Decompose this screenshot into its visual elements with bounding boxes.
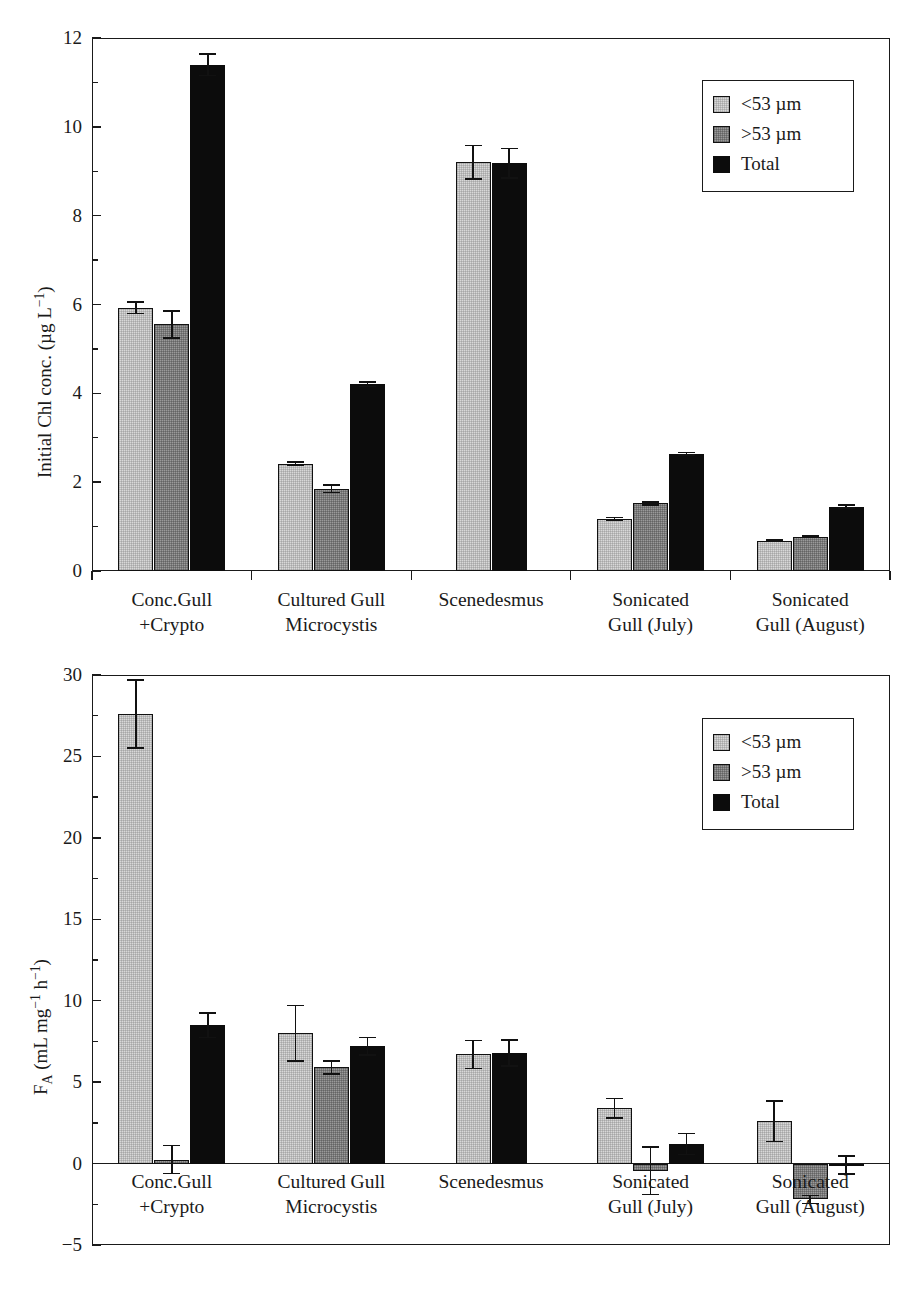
y-tick-label: 4 bbox=[30, 383, 82, 402]
error-bar-cap bbox=[465, 145, 482, 147]
error-bar-cap bbox=[465, 1040, 482, 1042]
bar-gt53 bbox=[314, 1067, 349, 1163]
y-tick-major bbox=[92, 1081, 101, 1082]
y-tick-label: 12 bbox=[30, 28, 82, 47]
error-bar-cap bbox=[678, 452, 695, 454]
error-bar-cap bbox=[766, 541, 783, 543]
bar-lt53 bbox=[456, 1054, 491, 1163]
bar-lt53 bbox=[118, 308, 153, 571]
y-tick-label: 20 bbox=[30, 828, 82, 847]
y-tick-minor bbox=[92, 348, 98, 349]
error-bar-cap bbox=[287, 464, 304, 466]
x-tick-major bbox=[411, 571, 412, 580]
legend-label-lt53: <53 µm bbox=[741, 93, 801, 115]
x-tick-major bbox=[91, 571, 92, 580]
bar-lt53 bbox=[118, 714, 153, 1163]
error-bar-cap bbox=[606, 517, 623, 519]
y-tick-label: 5 bbox=[30, 1072, 82, 1091]
error-bar-cap bbox=[678, 1154, 695, 1156]
error-bar-cap bbox=[323, 492, 340, 494]
error-bar-cap bbox=[127, 313, 144, 315]
error-bar-stem bbox=[508, 1040, 510, 1066]
bar-gt53 bbox=[314, 489, 349, 571]
error-bar-cap bbox=[501, 1039, 518, 1041]
y-tick-major bbox=[92, 919, 101, 920]
bar-total bbox=[350, 384, 385, 571]
error-bar-stem bbox=[171, 311, 173, 338]
y-tick-label: 2 bbox=[30, 472, 82, 491]
y-tick-major bbox=[92, 37, 101, 38]
y-tick-major bbox=[92, 304, 101, 305]
figure-root: Initial Chl conc. (µg L−1) 024681012 Con… bbox=[0, 0, 897, 1309]
chart-panel-top: Initial Chl conc. (µg L−1) 024681012 Con… bbox=[0, 0, 897, 640]
error-bar-cap bbox=[501, 148, 518, 150]
x-tick-major bbox=[251, 571, 252, 580]
legend-bottom: <53 µm >53 µm Total bbox=[702, 718, 854, 830]
error-bar-cap bbox=[838, 504, 855, 506]
y-tick-major bbox=[92, 837, 101, 838]
y-tick-label: −5 bbox=[30, 1235, 82, 1254]
bar-total bbox=[350, 1046, 385, 1163]
bar-total bbox=[669, 454, 704, 571]
error-bar-cap bbox=[359, 1037, 376, 1039]
error-bar-cap bbox=[642, 501, 659, 503]
error-bar-stem bbox=[508, 149, 510, 178]
y-tick-label: 10 bbox=[30, 991, 82, 1010]
error-bar-cap bbox=[199, 1012, 216, 1014]
legend-swatch-total-icon bbox=[713, 794, 730, 811]
legend-swatch-gt53-icon bbox=[713, 764, 730, 781]
bar-total bbox=[492, 163, 527, 571]
legend-swatch-lt53-icon bbox=[713, 96, 730, 113]
error-bar-cap bbox=[287, 1005, 304, 1007]
y-tick-label: 10 bbox=[30, 117, 82, 136]
error-bar-cap bbox=[287, 1060, 304, 1062]
bar-lt53 bbox=[757, 541, 792, 571]
legend-label-total: Total bbox=[741, 791, 780, 813]
bar-total bbox=[190, 1025, 225, 1163]
bar-total bbox=[829, 507, 864, 571]
y-tick-major bbox=[92, 126, 101, 127]
legend-top: <53 µm >53 µm Total bbox=[702, 80, 854, 192]
error-bar-cap bbox=[465, 178, 482, 180]
error-bar-cap bbox=[359, 1054, 376, 1056]
bar-gt53 bbox=[633, 503, 668, 571]
legend-label-gt53: >53 µm bbox=[741, 761, 801, 783]
error-bar-cap bbox=[199, 1037, 216, 1039]
y-tick-minor bbox=[92, 1041, 98, 1042]
error-bar-cap bbox=[501, 1065, 518, 1067]
error-bar-cap bbox=[802, 537, 819, 539]
error-bar-cap bbox=[465, 1068, 482, 1070]
error-bar-stem bbox=[207, 1013, 209, 1037]
error-bar-cap bbox=[766, 1141, 783, 1143]
error-bar-cap bbox=[678, 1133, 695, 1135]
error-bar-cap bbox=[163, 337, 180, 339]
bar-total bbox=[492, 1053, 527, 1164]
y-tick-label: 30 bbox=[30, 665, 82, 684]
error-bar-cap bbox=[642, 1146, 659, 1148]
legend-item: Total bbox=[713, 149, 841, 179]
error-bar-cap bbox=[766, 1100, 783, 1102]
y-tick-major bbox=[92, 481, 101, 482]
legend-swatch-gt53-icon bbox=[713, 126, 730, 143]
error-bar-cap bbox=[199, 53, 216, 55]
error-bar-stem bbox=[773, 1101, 775, 1142]
y-tick-label: 15 bbox=[30, 909, 82, 928]
y-tick-minor bbox=[92, 171, 98, 172]
legend-item: <53 µm bbox=[713, 89, 841, 119]
error-bar-cap bbox=[287, 461, 304, 463]
y-tick-label: 0 bbox=[30, 561, 82, 580]
legend-item: >53 µm bbox=[713, 119, 841, 149]
legend-swatch-total-icon bbox=[713, 156, 730, 173]
error-bar-cap bbox=[606, 520, 623, 522]
y-axis-label-top: Initial Chl conc. (µg L−1) bbox=[34, 286, 56, 478]
error-bar-cap bbox=[359, 381, 376, 383]
error-bar-stem bbox=[686, 1133, 688, 1154]
y-tick-label: 25 bbox=[30, 746, 82, 765]
bar-lt53 bbox=[597, 519, 632, 571]
chart-panel-bottom: FA (mL mg−1 h−1) −5051015202530 Conc.Gul… bbox=[0, 640, 897, 1309]
y-tick-major bbox=[92, 393, 101, 394]
x-category-label: SonicatedGull (August) bbox=[700, 1170, 897, 1220]
legend-label-total: Total bbox=[741, 153, 780, 175]
x-category-label: SonicatedGull (August) bbox=[700, 588, 897, 638]
legend-item: Total bbox=[713, 787, 841, 817]
